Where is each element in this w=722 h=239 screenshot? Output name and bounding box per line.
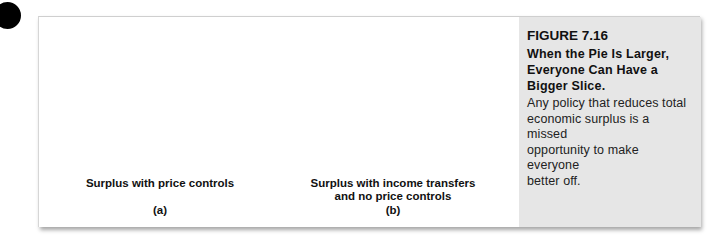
figure-body-line: economic surplus is a missed xyxy=(527,112,693,143)
figure-title-line: Everyone Can Have a xyxy=(527,62,693,78)
panel-b-label-line: Surplus with income transfers xyxy=(293,177,493,190)
panel-b-label: Surplus with income transfers and no pri… xyxy=(293,177,493,203)
figure-body-line: Any policy that reduces total xyxy=(527,96,693,112)
figure-number: FIGURE 7.16 xyxy=(527,28,693,44)
panel-b-letter: (b) xyxy=(293,204,493,216)
panel-a-letter: (a) xyxy=(60,204,260,216)
figure-body: Any policy that reduces total economic s… xyxy=(527,96,693,189)
figure-caption: FIGURE 7.16 When the Pie Is Larger, Ever… xyxy=(519,17,701,227)
figure-title-line: Bigger Slice. xyxy=(527,78,693,94)
panel-b-label-line: and no price controls xyxy=(293,190,493,203)
figure-body-line: better off. xyxy=(527,174,693,190)
panel-a-label: Surplus with price controls xyxy=(60,177,260,190)
panel-a-label-line: Surplus with price controls xyxy=(60,177,260,190)
figure-title-line: When the Pie Is Larger, xyxy=(527,46,693,62)
figure-body-line: opportunity to make everyone xyxy=(527,143,693,174)
